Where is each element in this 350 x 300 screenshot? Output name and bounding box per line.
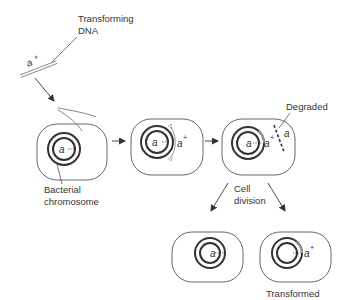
cell-3: a a + a — [222, 119, 295, 175]
division-arrow-right — [268, 183, 285, 211]
cell-1: a — [37, 108, 107, 184]
cell-3-allele-a: a — [246, 138, 252, 149]
entry-arrow — [35, 78, 54, 101]
division-arrow-left — [211, 183, 228, 211]
daughter-cell-left: a — [172, 232, 243, 282]
cell-3-allele-plus-sign: + — [270, 134, 274, 141]
daughter-left-allele-a: a — [210, 248, 216, 259]
cell-1-entering-dna-strand-2 — [58, 110, 82, 131]
cell-2-allele-a: a — [152, 137, 158, 148]
cell-division-label-line2: division — [234, 195, 266, 206]
bacterial-chromosome-label-line1: Bacterial — [44, 184, 81, 195]
daughter-right-allele-plus-sign: + — [310, 244, 314, 251]
cell-1-allele-a: a — [59, 144, 65, 155]
bacterial-chromosome-label-line2: chromosome — [44, 196, 99, 207]
cell-3-degraded-allele-a: a — [284, 128, 290, 139]
degraded-leader-line — [279, 113, 290, 128]
cell-2: a a + — [131, 119, 203, 175]
bacterial-chromosome-leader-line — [57, 164, 62, 184]
fragment-allele-a: a — [25, 56, 35, 68]
daughter-cell-right: a + — [260, 232, 331, 282]
fragment-allele-plus: + — [33, 53, 39, 61]
transforming-dna-label: Transforming DNA — [52, 13, 134, 62]
cell-2-allele-plus-sign: + — [183, 134, 187, 141]
cell-division-label-line1: Cell — [234, 183, 250, 194]
transforming-dna-label-line1: Transforming — [78, 13, 134, 24]
cell-1-entering-dna-strand-1 — [58, 108, 96, 117]
degraded-label: Degraded — [286, 101, 328, 112]
daughter-left-membrane — [172, 232, 243, 282]
cell-3-degraded-strand — [274, 125, 284, 152]
transforming-dna-label-line2: DNA — [78, 25, 99, 36]
transformation-diagram: Transforming DNA a + a Bacterial chromos… — [0, 0, 350, 300]
transforming-dna-leader-line — [52, 37, 77, 62]
transformed-cell-label-line1: Transformed — [266, 288, 320, 299]
transforming-dna-fragment: a + — [20, 53, 57, 78]
